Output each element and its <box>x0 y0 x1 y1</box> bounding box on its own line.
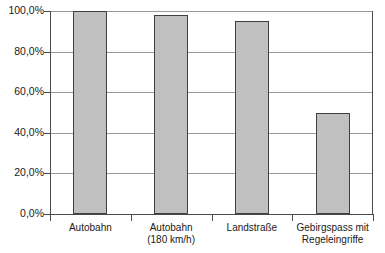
x-axis-category-label-line: Landstraße <box>212 222 293 234</box>
x-axis-category-label: Autobahn(180 km/h) <box>131 222 212 245</box>
y-axis-tick-label: 80,0% <box>2 46 44 57</box>
x-axis-category-label: Autobahn <box>50 222 131 234</box>
x-axis-tick <box>131 215 132 221</box>
bar-chart: 0,0%20,0%40,0%60,0%80,0%100,0% AutobahnA… <box>0 0 385 253</box>
x-axis-tick <box>50 215 51 221</box>
y-axis-tick <box>44 52 50 53</box>
x-axis-category-label: Landstraße <box>212 222 293 234</box>
y-axis-line <box>50 11 51 215</box>
y-axis-tick-label: 60,0% <box>2 86 44 97</box>
x-axis-tick <box>292 215 293 221</box>
x-axis-tick <box>373 215 374 221</box>
bar <box>235 21 269 214</box>
y-axis-tick-label: 20,0% <box>2 167 44 178</box>
bar <box>154 15 188 214</box>
y-axis-tick <box>44 173 50 174</box>
y-axis-tick <box>44 133 50 134</box>
y-axis-tick-label: 0,0% <box>2 208 44 219</box>
x-axis-category-label-line: Autobahn <box>50 222 131 234</box>
x-axis-category-label-line: (180 km/h) <box>131 234 212 246</box>
y-axis-tick-label: 100,0% <box>2 5 44 16</box>
plot-area <box>50 11 373 214</box>
bar <box>73 11 107 214</box>
x-axis-tick <box>212 215 213 221</box>
y-axis-labels: 0,0%20,0%40,0%60,0%80,0%100,0% <box>0 0 44 253</box>
x-axis-category-label-line: Gebirgspass mit <box>292 222 373 234</box>
x-axis-category-label-line: Regeleingriffe <box>292 234 373 246</box>
y-axis-tick <box>44 92 50 93</box>
x-axis-category-label: Gebirgspass mitRegeleingriffe <box>292 222 373 245</box>
y-axis-tick-label: 40,0% <box>2 127 44 138</box>
x-axis-category-label-line: Autobahn <box>131 222 212 234</box>
bar <box>316 113 350 215</box>
y-axis-tick <box>44 11 50 12</box>
